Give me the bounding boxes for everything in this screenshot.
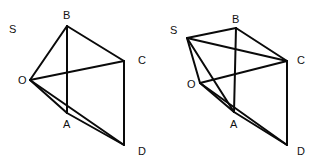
edge-OC [30, 61, 124, 80]
label-right-B: B [232, 13, 239, 25]
diagram-canvas: S B C O A D S B C O A D [0, 0, 319, 163]
edge-BC [67, 26, 124, 61]
label-left-C: C [138, 54, 146, 66]
label-left-A: A [63, 118, 71, 130]
label-left-D: D [138, 145, 146, 157]
edge-AD [67, 113, 124, 145]
edge-SA [187, 38, 234, 112]
edge-SC [187, 38, 287, 61]
edge-SO [187, 38, 200, 83]
edge-SB [187, 28, 236, 38]
label-right-D: D [297, 145, 305, 157]
edge-OC [200, 61, 287, 83]
edge-BA [234, 28, 236, 112]
label-left-S: S [9, 23, 16, 35]
edge-OB [30, 26, 67, 80]
label-left-B: B [63, 9, 70, 21]
label-right-A: A [230, 118, 238, 130]
edge-AD [234, 112, 287, 145]
label-right-S: S [170, 24, 177, 36]
edge-OD [30, 80, 124, 145]
label-left-O: O [18, 74, 27, 86]
label-right-C: C [297, 54, 305, 66]
figure-left [30, 26, 124, 145]
label-right-O: O [187, 78, 196, 90]
